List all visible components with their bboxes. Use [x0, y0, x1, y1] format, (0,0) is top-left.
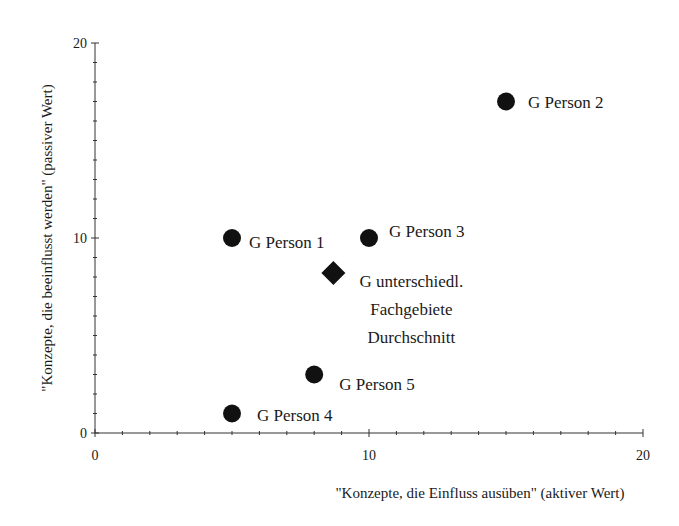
point-label: G Person 4: [257, 406, 333, 425]
data-point: G unterschiedl.FachgebieteDurchschnitt: [321, 261, 463, 347]
point-label: G unterschiedl.: [359, 272, 463, 291]
point-label: G Person 2: [528, 93, 604, 112]
x-tick-label: 10: [362, 448, 376, 463]
y-axis-label: "Konzepte, die beeinflusst werden" (pass…: [39, 84, 56, 391]
point-label: G Person 3: [389, 222, 465, 241]
x-tick-label: 0: [92, 448, 99, 463]
point-label: Durchschnitt: [367, 328, 455, 347]
circle-marker-icon: [223, 229, 241, 247]
circle-marker-icon: [223, 405, 241, 423]
scatter-chart: 0102001020 G Person 1G Person 2G Person …: [0, 0, 679, 526]
y-tick-label: 20: [73, 36, 87, 51]
diamond-marker-icon: [321, 261, 345, 285]
data-point: G Person 4: [223, 405, 333, 425]
data-points: G Person 1G Person 2G Person 3G Person 4…: [223, 93, 604, 425]
x-axis-label: "Konzepte, die Einfluss ausüben" (aktive…: [335, 485, 624, 502]
circle-marker-icon: [360, 229, 378, 247]
point-label: G Person 5: [339, 375, 415, 394]
y-tick-label: 10: [73, 231, 87, 246]
y-tick-label: 0: [80, 426, 87, 441]
x-tick-label: 20: [636, 448, 650, 463]
circle-marker-icon: [497, 93, 515, 111]
data-point: G Person 1: [223, 229, 325, 252]
point-label: G Person 1: [249, 233, 325, 252]
circle-marker-icon: [305, 366, 323, 384]
point-label: Fachgebiete: [370, 300, 452, 319]
data-point: G Person 2: [497, 93, 604, 112]
data-point: G Person 5: [305, 366, 415, 394]
data-point: G Person 3: [360, 222, 465, 247]
